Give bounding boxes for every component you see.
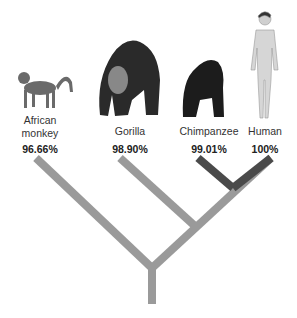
similarity-gorilla: 98.90% <box>100 143 160 155</box>
chimpanzee-icon <box>183 60 224 117</box>
species-label-gorilla: Gorilla <box>100 125 160 138</box>
species-label-chimpanzee: Chimpanzee <box>174 125 244 138</box>
gorilla-icon <box>99 41 160 116</box>
phylogenetic-tree <box>0 0 297 318</box>
similarity-monkey: 96.66% <box>10 143 70 155</box>
species-label-monkey: African monkey <box>10 114 70 140</box>
monkey-icon <box>18 72 73 108</box>
similarity-chimpanzee: 99.01% <box>174 143 244 155</box>
species-label-human: Human <box>240 125 290 138</box>
human-icon <box>251 12 278 118</box>
similarity-human: 100% <box>240 143 290 155</box>
tree-branches <box>36 158 271 304</box>
